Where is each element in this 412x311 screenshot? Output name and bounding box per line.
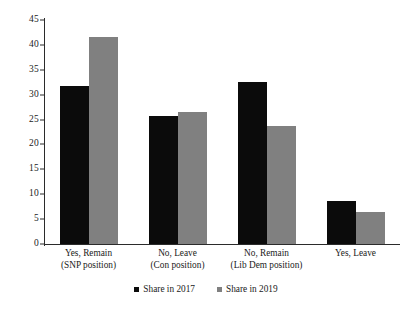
category-label-sub: (SNP position) bbox=[44, 260, 133, 272]
x-axis-category-labels: Yes, Remain(SNP position)No, Leave(Con p… bbox=[44, 248, 400, 282]
bar-2017 bbox=[238, 82, 267, 244]
y-tick-label: 45 bbox=[29, 15, 39, 25]
category-label-sub: (Con position) bbox=[133, 260, 222, 272]
y-tick-label: 0 bbox=[34, 239, 39, 249]
legend-swatch-icon bbox=[134, 287, 139, 292]
bar-2017 bbox=[327, 201, 356, 244]
bar-2017 bbox=[60, 86, 89, 244]
bar-chart: 051015202530354045 Yes, Remain(SNP posit… bbox=[0, 0, 412, 311]
x-axis-line bbox=[44, 244, 400, 245]
category-label-main: No, Leave bbox=[158, 248, 197, 258]
y-tick-label: 5 bbox=[34, 214, 39, 224]
y-tick-label: 35 bbox=[29, 65, 39, 75]
category-label: No, Leave(Con position) bbox=[133, 248, 222, 282]
legend-label: Share in 2019 bbox=[226, 285, 278, 294]
chart-legend: Share in 2017Share in 2019 bbox=[0, 285, 412, 294]
bar-group bbox=[133, 20, 222, 244]
y-tick-label: 10 bbox=[29, 189, 39, 199]
y-tick-label: 15 bbox=[29, 165, 39, 175]
legend-label: Share in 2017 bbox=[143, 285, 195, 294]
bar-2017 bbox=[149, 116, 178, 244]
bar-2019 bbox=[356, 212, 385, 244]
bar-2019 bbox=[178, 112, 207, 244]
category-label: Yes, Leave bbox=[311, 248, 400, 282]
category-label-sub: (Lib Dem position) bbox=[222, 260, 311, 272]
bar-2019 bbox=[267, 126, 296, 244]
legend-swatch-icon bbox=[217, 287, 222, 292]
y-tick-label: 20 bbox=[29, 140, 39, 150]
bar-group bbox=[222, 20, 311, 244]
category-label-main: No, Remain bbox=[244, 248, 289, 258]
y-tick-label: 40 bbox=[29, 40, 39, 50]
bar-groups bbox=[44, 20, 400, 244]
y-tick-label: 25 bbox=[29, 115, 39, 125]
bar-group bbox=[44, 20, 133, 244]
bar-group bbox=[311, 20, 400, 244]
bar-2019 bbox=[89, 37, 118, 244]
legend-item: Share in 2017 bbox=[134, 285, 195, 294]
legend-item: Share in 2019 bbox=[217, 285, 278, 294]
category-label-main: Yes, Remain bbox=[65, 248, 112, 258]
y-tick-label: 30 bbox=[29, 90, 39, 100]
category-label: Yes, Remain(SNP position) bbox=[44, 248, 133, 282]
y-axis-tick-labels: 051015202530354045 bbox=[0, 0, 39, 311]
category-label: No, Remain(Lib Dem position) bbox=[222, 248, 311, 282]
category-label-main: Yes, Leave bbox=[335, 248, 376, 258]
